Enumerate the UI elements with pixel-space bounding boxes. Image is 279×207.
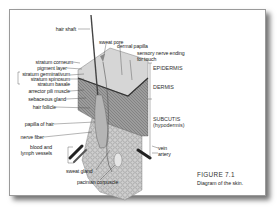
figure-caption: Diagram of the skin. bbox=[197, 180, 243, 186]
label-artery: artery bbox=[158, 151, 171, 157]
label-nerve-fiber: nerve fiber bbox=[21, 134, 44, 140]
label-pacinian-corpuscle: pacinian corpuscle bbox=[77, 179, 118, 185]
label-sensory-nerve-ending-line2: for touch bbox=[137, 56, 156, 62]
label-hair-follicle: hair follicle bbox=[33, 104, 56, 110]
label-blood-lymph-vessels-line2: lymph vessels bbox=[21, 150, 52, 156]
layer-label-hypodermis: (hypodermis) bbox=[153, 122, 184, 128]
label-hair-shaft: hair shaft bbox=[56, 26, 76, 32]
label-dermal-papilla: dermal papilla bbox=[117, 43, 148, 49]
label-papilla-of-hair: papilla of hair bbox=[25, 121, 54, 127]
layer-label-dermis: DERMIS bbox=[153, 84, 174, 90]
label-stratum-basale: stratum basale bbox=[37, 81, 70, 87]
layer-label-epidermis: EPIDERMIS bbox=[153, 65, 183, 71]
figure-title: FIGURE 7.1 bbox=[197, 171, 235, 178]
label-sebaceous-gland: sebaceous gland bbox=[28, 96, 66, 102]
label-sweat-gland: sweat gland bbox=[66, 168, 93, 174]
label-arrector-pili-muscle: arrector pili muscle bbox=[28, 88, 70, 94]
